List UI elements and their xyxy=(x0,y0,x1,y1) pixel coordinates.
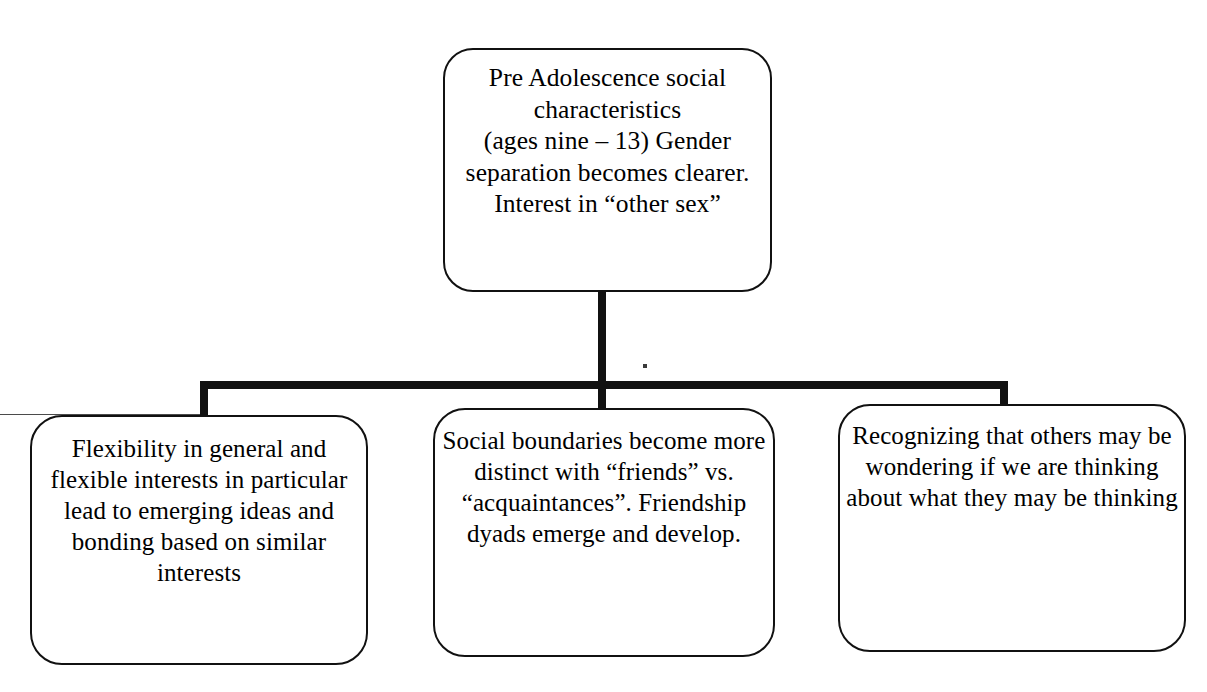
node-child-recognizing-others: Recognizing that others may be wondering… xyxy=(838,404,1186,652)
node-root-label: Pre Adolescence social characteristics (… xyxy=(445,50,770,220)
node-child-social-boundaries: Social boundaries become more distinct w… xyxy=(433,408,775,657)
diagram-canvas: Pre Adolescence social characteristics (… xyxy=(0,0,1207,692)
connector-root-to-bus xyxy=(598,288,606,389)
node-root-pre-adolescence: Pre Adolescence social characteristics (… xyxy=(443,48,772,292)
node-child-flexibility: Flexibility in general and flexible inte… xyxy=(30,415,368,665)
node-child-social-boundaries-label: Social boundaries become more distinct w… xyxy=(435,410,773,549)
connector-drop-left xyxy=(200,385,208,418)
node-child-recognizing-others-label: Recognizing that others may be wondering… xyxy=(840,406,1184,513)
node-child-flexibility-label: Flexibility in general and flexible inte… xyxy=(32,417,366,588)
scan-artifact-speck xyxy=(643,364,647,368)
